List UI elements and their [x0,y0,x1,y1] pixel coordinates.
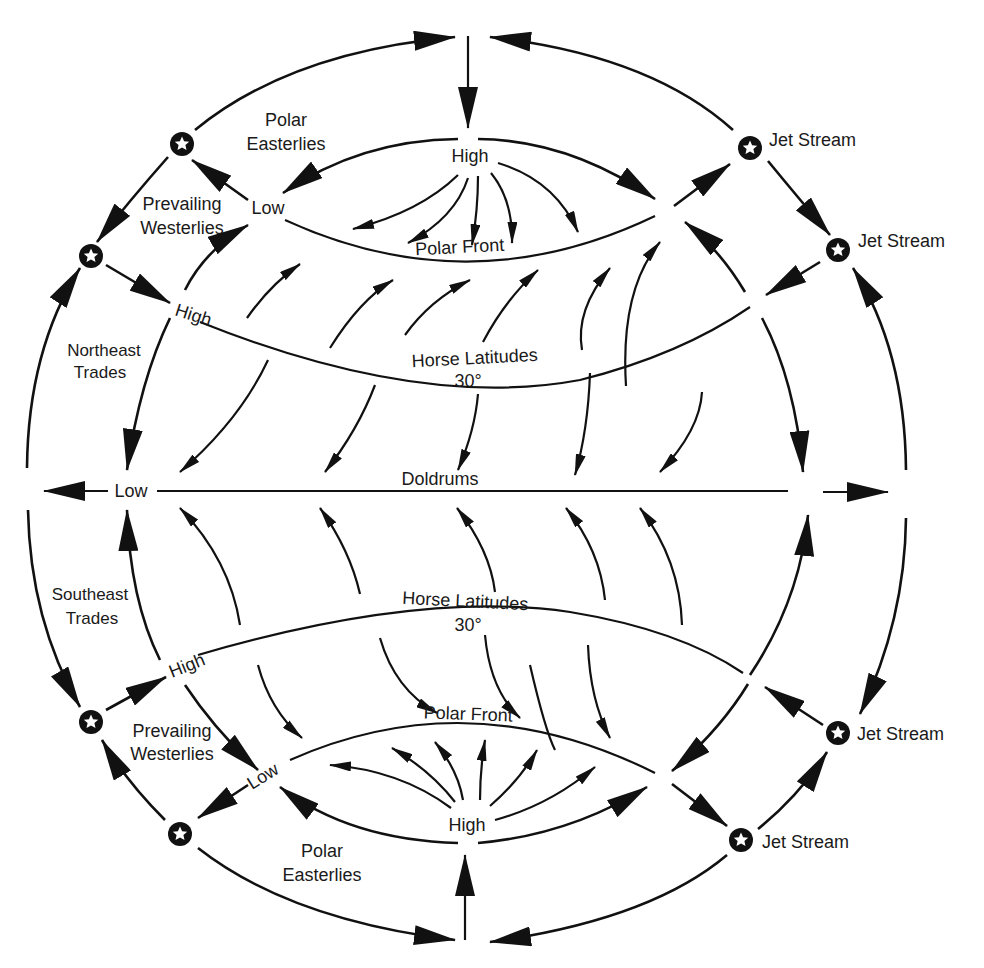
label-north-prevailing-westerlies: Prevailing [142,194,221,214]
star-in-circle-icon [729,828,753,852]
label-north-pole-high: High [451,146,488,166]
label-north-30-degrees: 30° [454,371,481,391]
label-north-subtropic-high: High [173,300,214,330]
global-wind-circulation-diagram: Polar Easterlies High Low Prevailing Wes… [0,0,984,968]
label-north-polar-front: Polar Front [415,235,505,260]
label-north-polar-easterlies: Easterlies [246,134,325,154]
label-south-prevailing-westerlies: Prevailing [132,721,211,741]
label-jet-stream: Jet Stream [858,231,945,251]
label-north-prevailing-westerlies: Westerlies [140,218,224,238]
label-north-polar-easterlies: Polar [265,110,307,130]
label-south-polar-easterlies: Polar [301,841,343,861]
equator [44,491,888,492]
label-jet-stream: Jet Stream [857,724,944,744]
label-northeast-trades: Northeast [67,341,141,360]
label-jet-stream: Jet Stream [769,130,856,150]
star-in-circle-icon [79,710,103,734]
label-jet-stream: Jet Stream [762,832,849,852]
label-south-polar-front: Polar Front [423,702,513,725]
label-south-prevailing-westerlies: Westerlies [130,744,214,764]
label-south-pole-high: High [448,815,485,835]
north-hadley-cell [127,318,803,475]
star-in-circle-icon [738,136,762,160]
label-equator-low: Low [114,481,148,501]
label-south-30-degrees: 30° [454,615,481,635]
label-south-polar-easterlies: Easterlies [282,865,361,885]
label-southeast-trades: Southeast [52,585,129,604]
label-northeast-trades: Trades [74,363,126,382]
label-south-subtropic-high: High [166,649,208,681]
star-in-circle-icon [170,132,194,156]
label-north-horse-latitudes: Horse Latitudes [411,345,538,372]
label-north-low: Low [251,198,285,218]
label-doldrums: Doldrums [401,469,478,489]
label-southeast-trades: Trades [66,609,118,628]
star-in-circle-icon [168,822,192,846]
outer-circulation [27,36,906,942]
star-in-circle-icon [79,244,103,268]
star-in-circle-icon [826,238,850,262]
star-in-circle-icon [826,721,850,745]
